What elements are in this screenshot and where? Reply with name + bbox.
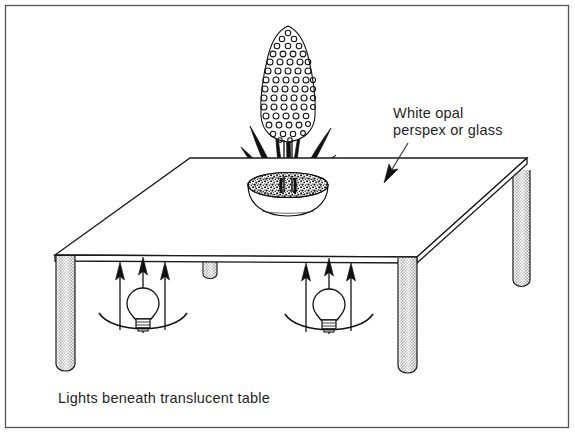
lamp-right-bulb-glass: [313, 289, 345, 320]
illustration-figure: White opal perspex or glass Lights benea…: [0, 0, 575, 434]
illustration-canvas: White opal perspex or glass Lights benea…: [0, 0, 575, 434]
material-label-line2: perspex or glass: [393, 122, 503, 138]
lamp-left-bulb-base: [136, 319, 150, 328]
front-left-leg: [56, 256, 75, 371]
material-label-line1: White opal: [393, 105, 464, 121]
tabletop-front-edge: [55, 255, 417, 263]
front-right-leg: [398, 258, 417, 373]
figure-caption: Lights beneath translucent table: [58, 390, 270, 406]
lamp-right-bulb-base: [322, 320, 336, 329]
lamp-left-bulb-glass: [127, 288, 159, 319]
back-right-leg: [513, 170, 530, 287]
